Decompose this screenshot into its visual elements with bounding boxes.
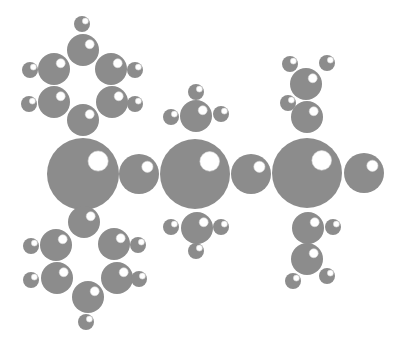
- central-atom: [272, 138, 342, 208]
- atom-sphere: [67, 34, 99, 66]
- highlight-dot: [171, 111, 177, 117]
- highlight-dot: [135, 98, 141, 104]
- highlight-dot: [56, 59, 65, 68]
- carbon-atom: [291, 243, 323, 275]
- atom-sphere: [98, 228, 130, 260]
- highlight-dot: [200, 152, 220, 172]
- highlight-dot: [309, 107, 318, 116]
- hydrogen-atom: [127, 96, 143, 112]
- atom-sphere: [319, 55, 335, 71]
- atom-sphere: [290, 68, 322, 100]
- atom-sphere: [291, 101, 323, 133]
- carbon-atom: [180, 100, 212, 132]
- carbon-atom: [95, 53, 127, 85]
- carbon-atom: [181, 212, 213, 244]
- hydrogen-atom: [319, 268, 335, 284]
- atom-sphere: [231, 154, 271, 194]
- carbon-atom: [292, 212, 324, 244]
- carbon-atom: [291, 101, 323, 133]
- highlight-dot: [119, 268, 128, 277]
- atom-sphere: [163, 219, 179, 235]
- highlight-dot: [171, 221, 177, 227]
- atom-sphere: [127, 62, 143, 78]
- carbon-atom: [101, 262, 133, 294]
- atom-sphere: [291, 243, 323, 275]
- highlight-dot: [86, 212, 95, 221]
- highlight-dot: [85, 40, 94, 49]
- atom-sphere: [213, 219, 229, 235]
- highlight-dot: [333, 221, 339, 227]
- hydrogen-atom: [285, 273, 301, 289]
- atom-sphere: [131, 271, 147, 287]
- atom-sphere: [47, 138, 119, 210]
- atom-sphere: [74, 16, 90, 32]
- hydrogen-atom: [127, 62, 143, 78]
- highlight-dot: [58, 235, 67, 244]
- atom-sphere: [101, 262, 133, 294]
- atom-sphere: [38, 53, 70, 85]
- carbon-atom: [290, 68, 322, 100]
- highlight-dot: [198, 106, 207, 115]
- hydrogen-atom: [74, 16, 90, 32]
- molecule-diagram: [0, 0, 401, 353]
- highlight-dot: [196, 245, 202, 251]
- atom-sphere: [67, 104, 99, 136]
- hydrogen-atom: [188, 84, 204, 100]
- highlight-dot: [221, 221, 227, 227]
- hydrogen-atom: [22, 62, 38, 78]
- linker-atom: [344, 153, 384, 193]
- hydrogen-atom: [131, 271, 147, 287]
- atom-sphere: [127, 96, 143, 112]
- atom-sphere: [38, 86, 70, 118]
- group-phenyl-top-left: [21, 16, 143, 136]
- highlight-dot: [85, 110, 94, 119]
- highlight-dot: [310, 218, 319, 227]
- carbon-atom: [98, 228, 130, 260]
- atom-sphere: [325, 219, 341, 235]
- atom-sphere: [119, 154, 159, 194]
- hydrogen-atom: [21, 96, 37, 112]
- atom-sphere: [23, 272, 39, 288]
- hydrogen-atom: [163, 219, 179, 235]
- atom-sphere: [292, 212, 324, 244]
- carbon-atom: [38, 86, 70, 118]
- carbon-atom: [67, 34, 99, 66]
- highlight-dot: [293, 275, 299, 281]
- molecule-svg: [0, 0, 401, 353]
- atom-sphere: [40, 229, 72, 261]
- group-phenyl-bottom-left: [23, 206, 147, 330]
- hydrogen-atom: [213, 106, 229, 122]
- atom-sphere: [319, 268, 335, 284]
- atom-sphere: [272, 138, 342, 208]
- atom-sphere: [280, 95, 296, 111]
- hydrogen-atom: [188, 243, 204, 259]
- highlight-dot: [59, 268, 68, 277]
- atom-sphere: [23, 238, 39, 254]
- atom-sphere: [22, 62, 38, 78]
- carbon-atom: [38, 53, 70, 85]
- highlight-dot: [31, 274, 37, 280]
- highlight-dot: [327, 57, 333, 63]
- carbon-atom: [40, 229, 72, 261]
- highlight-dot: [82, 18, 88, 24]
- hydrogen-atom: [78, 314, 94, 330]
- highlight-dot: [29, 98, 35, 104]
- hydrogen-atom: [23, 272, 39, 288]
- hydrogen-atom: [280, 95, 296, 111]
- highlight-dot: [116, 234, 125, 243]
- group-methyl-bottom-middle: [163, 212, 229, 259]
- hydrogen-atom: [130, 237, 146, 253]
- group-methyl-top-middle: [163, 84, 229, 132]
- highlight-dot: [139, 273, 145, 279]
- atom-sphere: [72, 281, 104, 313]
- carbon-atom: [41, 262, 73, 294]
- atom-sphere: [21, 96, 37, 112]
- central-atom: [47, 138, 119, 210]
- carbon-atom: [96, 86, 128, 118]
- atom-sphere: [130, 237, 146, 253]
- group-ethyl-bottom-right: [285, 212, 341, 289]
- highlight-dot: [199, 218, 208, 227]
- hydrogen-atom: [163, 109, 179, 125]
- highlight-dot: [31, 240, 37, 246]
- highlight-dot: [367, 160, 378, 171]
